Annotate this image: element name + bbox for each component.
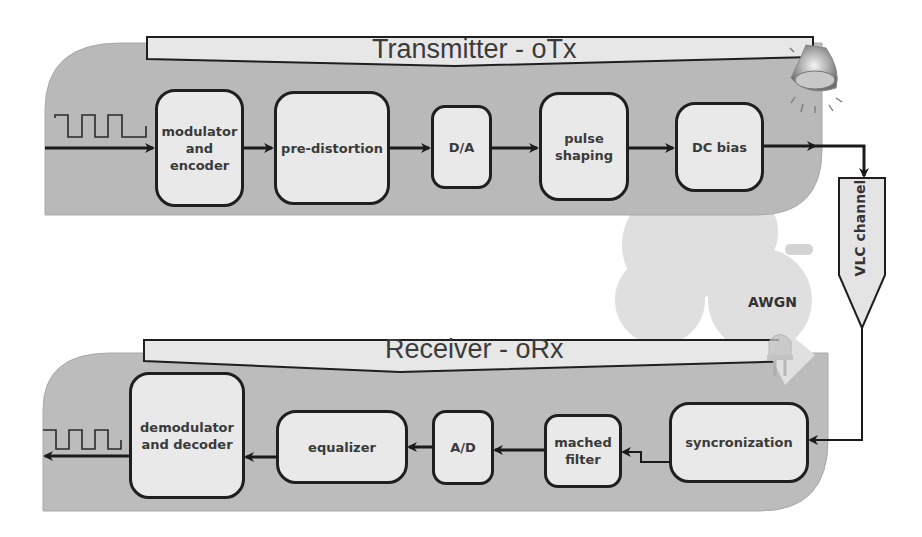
- mached-filter-block[interactable]: mached filter: [544, 414, 622, 488]
- awgn-label: AWGN: [748, 294, 797, 310]
- pre-distortion-block[interactable]: pre-distortion: [274, 91, 390, 205]
- equalizer-block[interactable]: equalizer: [276, 410, 408, 484]
- da-converter-block[interactable]: D/A: [431, 105, 492, 189]
- receiver-title: Receiver - oRx: [385, 334, 564, 365]
- transmitter-title: Transmitter - oTx: [372, 34, 577, 65]
- ad-converter-block[interactable]: A/D: [432, 410, 494, 485]
- syncronization-block[interactable]: syncronization: [669, 402, 809, 483]
- demodulator-decoder-block[interactable]: demodulator and decoder: [129, 372, 245, 499]
- dc-bias-block[interactable]: DC bias: [675, 102, 764, 192]
- pulse-shaping-block[interactable]: pulse shaping: [539, 92, 629, 201]
- modulator-encoder-block[interactable]: modulator and encoder: [155, 89, 244, 207]
- vlc-channel-label: VLC channel: [852, 178, 872, 278]
